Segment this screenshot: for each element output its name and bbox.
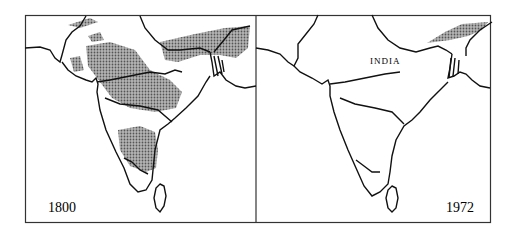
year-label-1800: 1800	[48, 200, 76, 215]
map-svg: 1800 INDIA 1972	[0, 0, 513, 233]
year-label-1972: 1972	[446, 200, 474, 215]
panel-1972: INDIA 1972	[256, 15, 492, 215]
comparison-map-figure: 1800 INDIA 1972	[0, 0, 513, 233]
country-label-india: INDIA	[370, 56, 401, 66]
panel-1800: 1800	[25, 16, 256, 215]
stipple-region-1972	[427, 22, 488, 43]
coastlines-1972	[256, 15, 492, 212]
